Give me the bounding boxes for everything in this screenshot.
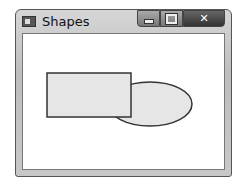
shapes-canvas [0,0,245,186]
rectangle-shape[interactable] [47,73,131,117]
